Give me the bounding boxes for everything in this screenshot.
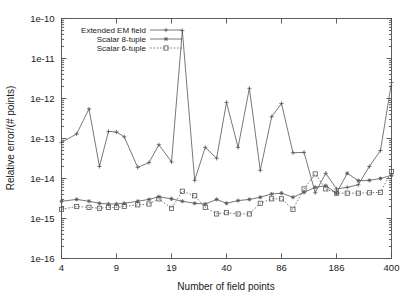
- y-tick-label: 1e-14: [30, 173, 54, 184]
- x-tick-label: 40: [221, 262, 232, 273]
- y-tick-label: 1e-16: [30, 253, 54, 264]
- y-tick-label: 1e-15: [30, 213, 54, 224]
- x-axis-ticks: 49194086186400: [59, 19, 400, 273]
- y-axis-ticks: 1e-101e-111e-121e-131e-141e-151e-16: [30, 13, 391, 264]
- series-markers: [59, 171, 393, 206]
- plot-canvas: 1e-101e-111e-121e-131e-141e-151e-16 4919…: [0, 0, 413, 307]
- legend-label-3: Scalar 6-tuple: [97, 44, 147, 53]
- x-tick-label: 400: [384, 262, 400, 273]
- y-tick-label: 1e-11: [31, 53, 55, 64]
- chart-legend: Extended EM fieldScalar 8-tupleScalar 6-…: [70, 25, 188, 54]
- series-path: [62, 31, 392, 193]
- data-series: [59, 169, 393, 216]
- legend-sample-marker-1: [164, 28, 168, 32]
- x-tick-label: 186: [329, 262, 345, 273]
- data-series: [59, 171, 393, 206]
- y-axis-title: Relative error/(# points): [5, 86, 16, 190]
- legend-sample-marker-2: [164, 37, 168, 41]
- data-series: [59, 28, 393, 194]
- series-path: [62, 173, 392, 204]
- legend-label-1: Extended EM field: [81, 26, 146, 35]
- x-tick-label: 19: [166, 262, 177, 273]
- series-markers: [59, 169, 393, 216]
- x-tick-label: 9: [114, 262, 119, 273]
- x-axis-title: Number of field points: [177, 281, 274, 292]
- data-series-group: [59, 28, 393, 216]
- series-markers: [59, 28, 393, 194]
- y-tick-label: 1e-13: [30, 133, 54, 144]
- legend-label-2: Scalar 8-tuple: [97, 35, 147, 44]
- x-tick-label: 86: [276, 262, 287, 273]
- x-tick-label: 4: [59, 262, 64, 273]
- y-tick-label: 1e-10: [30, 13, 54, 24]
- chart-figure: 1e-101e-111e-121e-131e-141e-151e-16 4919…: [0, 0, 413, 307]
- plot-frame: [62, 19, 392, 259]
- y-tick-label: 1e-12: [30, 93, 54, 104]
